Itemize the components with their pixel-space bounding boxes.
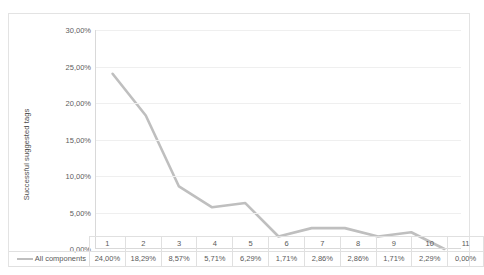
plot-wrapper: 0,00%5,00%10,00%15,00%20,00%25,00%30,00% — [95, 30, 461, 249]
gridline — [96, 213, 461, 214]
legend-entry-all-components: All components — [9, 252, 90, 267]
legend-label: All components — [35, 254, 86, 263]
y-axis-tick-label: 30,00% — [66, 26, 91, 35]
value-cell: 2,86% — [304, 252, 340, 267]
category-cell: 1 — [90, 237, 126, 252]
category-cell: 9 — [376, 237, 412, 252]
value-cell: 2,29% — [412, 252, 448, 267]
categories-row-spacer — [9, 237, 90, 252]
gridline — [96, 176, 461, 177]
gridline — [96, 67, 461, 68]
value-cell: 2,86% — [340, 252, 376, 267]
series-line — [113, 74, 445, 249]
category-cell: 5 — [233, 237, 269, 252]
value-cell: 6,29% — [233, 252, 269, 267]
value-cell: 18,29% — [125, 252, 161, 267]
value-cell: 0,00% — [448, 252, 484, 267]
y-axis-tick-label: 10,00% — [66, 172, 91, 181]
y-axis-tick-labels: 0,00%5,00%10,00%15,00%20,00%25,00%30,00% — [37, 30, 91, 249]
gridline — [96, 103, 461, 104]
y-axis-title: Successful suggested tags — [18, 69, 36, 239]
chart-data-table: 1234567891011 All components 24,00%18,29… — [9, 236, 484, 267]
y-axis-title-label: Successful suggested tags — [23, 108, 32, 200]
y-axis-tick-label: 25,00% — [66, 62, 91, 71]
value-cell: 5,71% — [197, 252, 233, 267]
y-axis-tick-label: 5,00% — [70, 208, 91, 217]
category-cell: 3 — [161, 237, 197, 252]
category-cell: 8 — [340, 237, 376, 252]
gridline — [96, 140, 461, 141]
category-cell: 4 — [197, 237, 233, 252]
plot-area — [95, 30, 461, 249]
y-axis-tick-label: 20,00% — [66, 99, 91, 108]
table-row-values: All components 24,00%18,29%8,57%5,71%6,2… — [9, 252, 483, 267]
value-cell: 24,00% — [90, 252, 126, 267]
legend-line-swatch-icon — [17, 258, 33, 260]
table-row-categories: 1234567891011 — [9, 237, 483, 252]
chart-container: Successful suggested tags 0,00%5,00%10,0… — [8, 13, 470, 267]
value-cell: 8,57% — [161, 252, 197, 267]
category-cell: 7 — [304, 237, 340, 252]
y-axis-tick-label: 15,00% — [66, 135, 91, 144]
category-cell: 11 — [448, 237, 484, 252]
value-cell: 1,71% — [269, 252, 305, 267]
category-cell: 2 — [125, 237, 161, 252]
value-cell: 1,71% — [376, 252, 412, 267]
category-cell: 6 — [269, 237, 305, 252]
gridline — [96, 30, 461, 31]
category-cell: 10 — [412, 237, 448, 252]
